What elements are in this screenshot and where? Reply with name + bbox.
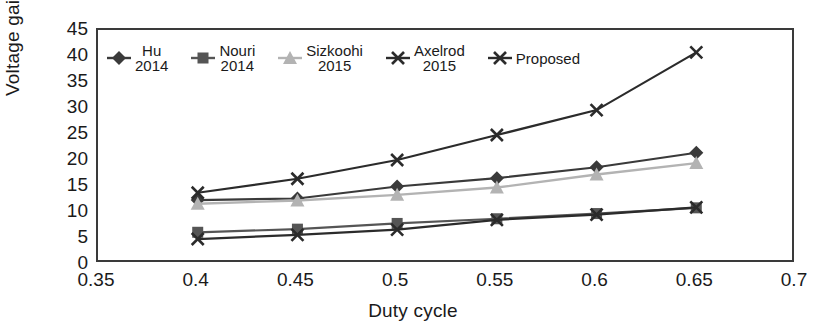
legend-label-line1: Nouri — [219, 43, 255, 58]
legend-label-line2: 2014 — [219, 58, 255, 73]
legend-item-proposed[interactable]: Proposed — [487, 47, 580, 69]
legend-marker-diamond-icon — [106, 47, 132, 69]
y-tick-label: 30 — [36, 97, 88, 116]
legend-item-hu-2014[interactable]: Hu2014 — [106, 43, 168, 74]
x-tick-label: 0.35 — [61, 270, 131, 289]
y-tick-label: 10 — [36, 201, 88, 220]
x-tick-label: 0.4 — [161, 270, 231, 289]
x-tick-label: 0.55 — [460, 270, 530, 289]
legend-marker-square-icon — [190, 47, 216, 69]
y-tick-label: 15 — [36, 175, 88, 194]
legend-label-line2: 2015 — [414, 58, 465, 73]
chart-figure: Voltage gain Duty cycle 0510152025303540… — [0, 0, 826, 335]
y-tick-label: 20 — [36, 149, 88, 168]
legend-marker-cross-icon — [385, 47, 411, 69]
y-tick-label: 5 — [36, 227, 88, 246]
legend-marker-triangle-icon — [277, 47, 303, 69]
series-axelrod-2015 — [192, 201, 703, 245]
y-tick-label: 45 — [36, 19, 88, 38]
x-tick-label: 0.65 — [659, 270, 729, 289]
y-tick-label: 35 — [36, 71, 88, 90]
legend-label-line1: Hu — [135, 43, 168, 58]
legend-label-line2: 2015 — [306, 58, 363, 73]
legend-label-line1: Sizkoohi — [306, 43, 363, 58]
legend-marker-cross-icon — [487, 47, 513, 69]
x-tick-label: 0.7 — [759, 270, 826, 289]
legend-label: Axelrod2015 — [414, 43, 465, 74]
legend-label: Sizkoohi2015 — [306, 43, 363, 74]
series-hu-2014 — [191, 146, 704, 207]
legend-label: Nouri2014 — [219, 43, 255, 74]
x-tick-label: 0.6 — [560, 270, 630, 289]
y-tick-label: 40 — [36, 45, 88, 64]
y-axis-title: Voltage gain — [2, 0, 24, 96]
legend-item-sizkoohi-2015[interactable]: Sizkoohi2015 — [277, 43, 363, 74]
chart-legend: Hu2014Nouri2014Sizkoohi2015Axelrod2015Pr… — [106, 43, 602, 74]
data-point-cross — [690, 46, 702, 58]
data-point-square — [292, 224, 303, 235]
data-point-square — [198, 53, 209, 64]
data-point-diamond — [112, 51, 126, 65]
legend-item-nouri-2014[interactable]: Nouri2014 — [190, 43, 255, 74]
x-tick-label: 0.5 — [360, 270, 430, 289]
legend-label-line2: 2014 — [135, 58, 168, 73]
x-axis-title: Duty cycle — [0, 300, 826, 322]
x-tick-label: 0.45 — [260, 270, 330, 289]
series-nouri-2014 — [192, 202, 702, 237]
y-tick-label: 25 — [36, 123, 88, 142]
legend-label-line1: Axelrod — [414, 43, 465, 58]
legend-item-axelrod-2015[interactable]: Axelrod2015 — [385, 43, 465, 74]
legend-label: Proposed — [516, 51, 580, 66]
legend-label: Hu2014 — [135, 43, 168, 74]
legend-label-line1: Proposed — [516, 51, 580, 66]
